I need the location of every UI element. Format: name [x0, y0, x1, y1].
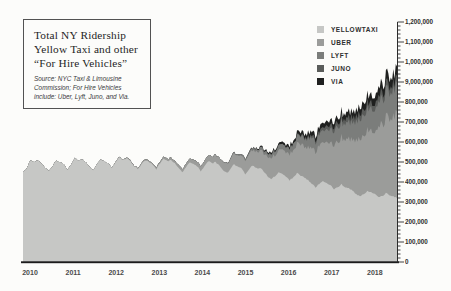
x-tick-label: 2018	[367, 269, 383, 276]
x-axis-line	[21, 261, 399, 263]
x-tick-label: 2016	[281, 269, 297, 276]
source-note: Source: NYC Taxi & LimousineCommission; …	[34, 75, 144, 101]
legend-item-yellowtaxi: YELLOWTAXI	[317, 23, 378, 36]
legend-swatch-icon	[317, 78, 324, 85]
title-box: Total NY RidershipYellow Taxi and other“…	[23, 19, 151, 109]
legend: YELLOWTAXIUBERLYFTJUNOVIA	[317, 23, 378, 88]
y-tick-label: 800,000	[405, 98, 428, 106]
legend-swatch-icon	[317, 39, 324, 46]
x-tick-label: 2011	[66, 269, 81, 276]
source-line: Source: NYC Taxi & Limousine	[34, 75, 144, 84]
x-tick-label: 2012	[108, 269, 124, 276]
legend-item-juno: JUNO	[317, 62, 378, 75]
x-tick-label: 2014	[195, 269, 211, 276]
y-tick-label: 1,000,000	[405, 58, 434, 66]
chart-canvas: 0100,000200,000300,000400,000500,000600,…	[0, 0, 451, 291]
x-tick-label: 2010	[22, 269, 38, 276]
legend-label: LYFT	[331, 52, 349, 59]
y-tick-label: 9,000,000	[405, 78, 434, 86]
legend-item-uber: UBER	[317, 36, 378, 49]
y-tick-label: 0	[405, 258, 409, 265]
legend-swatch-icon	[317, 65, 324, 72]
y-tick-label: 200,000	[405, 218, 428, 226]
legend-label: YELLOWTAXI	[331, 26, 378, 33]
legend-label: JUNO	[331, 65, 351, 72]
y-tick-label: 700,000	[405, 118, 428, 126]
source-line: include: Uber, Lyft, Juno, and Via.	[34, 93, 144, 102]
legend-swatch-icon	[317, 52, 324, 59]
x-tick-label: 2017	[324, 269, 340, 276]
source-line: Commission; For Hire Vehicles	[34, 84, 144, 93]
y-tick-label: 600,000	[405, 138, 428, 146]
legend-swatch-icon	[317, 26, 324, 33]
legend-item-via: VIA	[317, 75, 378, 88]
x-tick-label: 2015	[238, 269, 254, 276]
y-tick-label: 300,000	[405, 198, 428, 206]
x-tick-label: 2013	[152, 269, 168, 276]
legend-item-lyft: LYFT	[317, 49, 378, 62]
legend-label: UBER	[331, 39, 351, 46]
chart-title: Total NY RidershipYellow Taxi and other“…	[34, 29, 144, 70]
title-line: Yellow Taxi and other	[34, 43, 144, 57]
title-line: Total NY Ridership	[34, 29, 144, 43]
y-tick-label: 1,200,000	[405, 18, 434, 26]
y-tick-label: 500,000	[405, 158, 428, 166]
y-tick-label: 1,100,000	[405, 38, 434, 46]
title-line: “For Hire Vehicles”	[34, 57, 144, 71]
y-tick-label: 100,000	[405, 238, 428, 246]
y-tick-label: 400,000	[405, 178, 428, 186]
legend-label: VIA	[331, 78, 343, 85]
